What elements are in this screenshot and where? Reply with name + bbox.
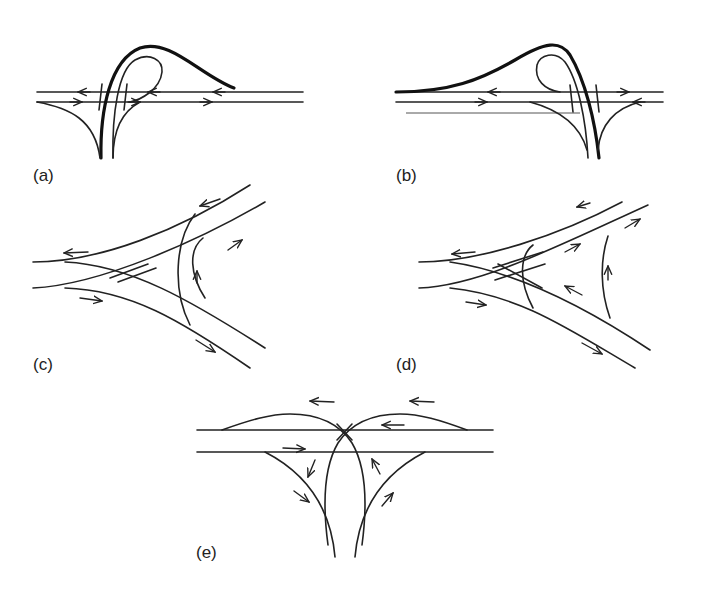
panel-d-label: (d) bbox=[396, 355, 417, 375]
interchange-diagram bbox=[0, 0, 702, 601]
panel-b-label: (b) bbox=[396, 166, 417, 186]
panel-a-label: (a) bbox=[33, 166, 54, 186]
panel-c-diagram bbox=[33, 185, 265, 368]
panel-e-label: (e) bbox=[196, 543, 217, 563]
panel-b-diagram bbox=[396, 45, 663, 158]
panel-d-diagram bbox=[419, 202, 650, 368]
panel-a-diagram bbox=[37, 46, 303, 158]
panel-e-diagram bbox=[197, 401, 493, 557]
panel-c-label: (c) bbox=[33, 355, 53, 375]
